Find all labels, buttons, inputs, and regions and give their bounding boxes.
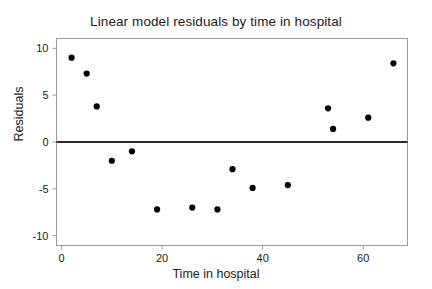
data-point [68,55,74,61]
y-tick-label: 5 [42,89,48,101]
data-point [365,115,371,121]
data-point [330,126,336,132]
data-point [250,185,256,191]
data-point [214,206,220,212]
data-point [285,182,291,188]
data-point [154,206,160,212]
data-point [84,71,90,77]
data-point [390,60,396,66]
x-tick-label: 0 [58,252,64,264]
data-point [189,204,195,210]
data-point [129,148,135,154]
data-point [94,103,100,109]
x-tick-label: 40 [257,252,269,264]
y-tick-label: -5 [39,183,49,195]
data-point [229,166,235,172]
data-point [325,105,331,111]
y-tick-label: -10 [33,230,49,242]
y-tick-label: 0 [42,136,48,148]
x-tick-label: 60 [357,252,369,264]
x-tick-label: 20 [156,252,168,264]
chart-figure: Linear model residuals by time in hospit… [0,0,432,289]
data-point-series [68,55,396,213]
y-axis-ticks: 1050-5-10 [33,42,57,241]
x-axis-ticks: 0204060 [58,246,369,264]
y-tick-label: 10 [36,42,48,54]
scatter-plot-canvas: 1050-5-10 0204060 [0,0,432,289]
data-point [109,158,115,164]
